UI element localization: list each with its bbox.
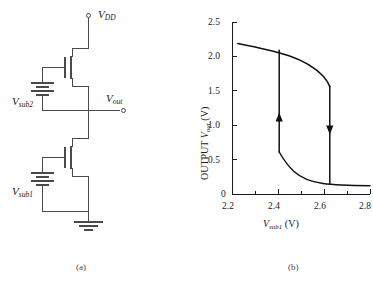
panel-b-caption: (b) — [288, 262, 299, 272]
upper-mos-drain-wire — [72, 48, 89, 49]
vsub1-plate-short-1 — [36, 176, 49, 178]
chart-panel: OUTPUT Vout (V) 2.5 2.0 1.5 1.0 0.5 0 2.… — [185, 0, 373, 289]
vsub1-bottom-wire — [42, 185, 43, 212]
chart-svg — [185, 0, 373, 289]
vsub2-plate-long-2 — [31, 90, 54, 92]
vout-label: Vout — [106, 93, 122, 106]
vsub2-plate-long-1 — [31, 82, 54, 84]
vdd-label: VDD — [98, 9, 116, 22]
upper-mos-drain-stub — [72, 48, 73, 57]
lower-mos-source-wire — [72, 176, 89, 177]
ground-bar-2 — [79, 225, 98, 227]
panel-a-caption: (a) — [76, 262, 86, 272]
upper-mos-gate-lead — [42, 67, 65, 68]
vsub1-label: Vsub1 — [12, 186, 33, 199]
vdd-wire — [88, 18, 89, 49]
vsub2-label: Vsub2 — [12, 96, 33, 109]
lower-mos-channel-bar — [70, 146, 72, 169]
vout-down-rail — [88, 110, 89, 139]
vsub2-plate-short-1 — [36, 86, 49, 88]
series-lower-branch — [279, 152, 370, 186]
ground-bar-3 — [84, 229, 93, 231]
upper-mos-source-wire — [72, 86, 89, 87]
vout-terminal — [121, 108, 126, 113]
circuit-schematic-panel: VDD Vsub2 Vout — [0, 0, 190, 289]
lower-mos-drain-stub — [72, 138, 73, 147]
upper-mos-channel-bar — [70, 56, 72, 79]
vsub1-top-wire — [42, 157, 43, 172]
vsub1-plate-long-2 — [31, 180, 54, 182]
lower-mos-drain-wire — [72, 138, 89, 139]
figure-root: VDD Vsub2 Vout — [0, 0, 373, 289]
up-arrow-marker — [276, 113, 283, 122]
ground-bar-1 — [74, 221, 103, 223]
upper-mos-output-rail — [88, 86, 89, 110]
lower-mos-gate-lead — [42, 157, 65, 158]
vout-node-wire — [42, 110, 120, 111]
down-arrow-marker — [326, 126, 333, 135]
vsub1-ground-wire — [42, 211, 89, 212]
series-upper-branch — [238, 43, 330, 86]
vsub2-bottom-wire — [42, 95, 43, 110]
lower-mos-ground-rail — [88, 176, 89, 221]
vsub2-top-wire — [42, 67, 43, 82]
vsub1-plate-long-1 — [31, 172, 54, 174]
